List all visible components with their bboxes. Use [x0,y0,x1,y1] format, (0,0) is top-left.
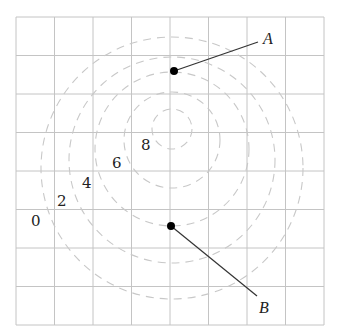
point-a-label: A [262,30,273,47]
leader-line-a [174,42,258,71]
contour-diagram: 0 2 4 6 8 A B [0,0,337,331]
point-a-marker [170,67,178,75]
contour-line-level-0 [41,37,303,299]
level-label-6: 6 [112,154,122,172]
contour-line-level-2 [69,57,275,263]
contour-level-labels: 0 2 4 6 8 [31,136,151,230]
contour-line-level-6 [124,92,220,188]
contour-line-level-8 [152,109,192,149]
marked-points: A B [167,30,273,316]
level-label-8: 8 [141,136,151,154]
level-label-2: 2 [57,192,67,210]
grid [16,17,324,325]
level-label-4: 4 [82,174,92,192]
contour-lines [41,37,303,299]
leader-line-b [171,226,257,296]
point-b-label: B [259,299,269,316]
level-label-0: 0 [31,212,41,230]
point-b-marker [167,222,175,230]
contour-map-canvas: 0 2 4 6 8 A B [0,0,337,331]
